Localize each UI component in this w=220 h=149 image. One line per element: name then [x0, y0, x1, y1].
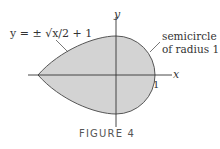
semicircle-label-line2: of radius 1	[162, 43, 219, 56]
figure-caption: FIGURE 4	[79, 128, 135, 139]
equation-leader-line	[56, 40, 68, 52]
y-axis-label: y	[114, 8, 120, 21]
semicircle-label: semicircle of radius 1	[162, 30, 219, 56]
x-axis-label: x	[173, 68, 179, 81]
tick-label-1: 1	[153, 79, 159, 90]
semicircle-leader-line	[150, 42, 160, 52]
semicircle-label-line1: semicircle	[162, 30, 219, 43]
equation-label: y = ± √x/2 + 1	[10, 27, 92, 40]
figure-diagram	[0, 0, 220, 149]
